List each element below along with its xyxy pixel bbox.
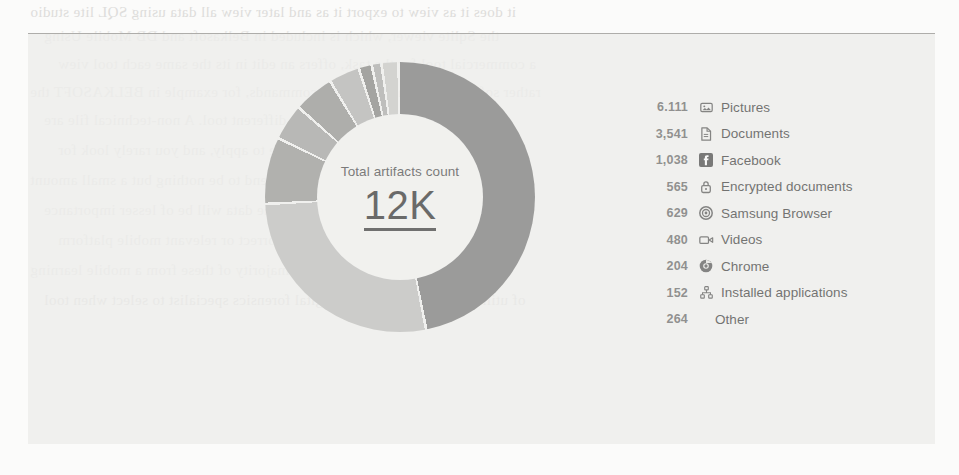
legend-item-value: 629	[640, 206, 688, 220]
pictures-icon	[694, 101, 718, 114]
legend-item-value: 3,541	[640, 127, 688, 141]
legend-item-encrypted-documents[interactable]: 565Encrypted documents	[640, 174, 900, 201]
legend-item-value: 1,038	[640, 153, 688, 167]
legend-item-label: Documents	[721, 126, 790, 141]
legend-item-label: Videos	[721, 232, 762, 247]
lock-icon	[694, 180, 718, 194]
legend-item-value: 264	[640, 312, 688, 326]
installed-applications-icon	[694, 286, 718, 299]
legend-item-other[interactable]: 264Other	[640, 306, 900, 333]
legend-item-label: Chrome	[721, 259, 769, 274]
legend-item-videos[interactable]: 480Videos	[640, 227, 900, 254]
legend-item-label: Other	[715, 312, 749, 327]
legend-item-value: 6.111	[640, 100, 688, 114]
legend-item-label: Installed applications	[721, 285, 847, 300]
legend-item-chrome[interactable]: 204Chrome	[640, 253, 900, 280]
legend-item-label: Samsung Browser	[721, 206, 832, 221]
legend-item-label: Facebook	[721, 153, 781, 168]
donut-center: Total artifacts count 12K	[317, 114, 483, 280]
center-total-value: 12K	[364, 185, 437, 231]
legend-item-value: 204	[640, 259, 688, 273]
legend-item-label: Pictures	[721, 100, 770, 115]
chart-legend: 6.111Pictures3,541Documents1,038Facebook…	[640, 94, 900, 333]
facebook-icon	[694, 153, 718, 167]
legend-item-pictures[interactable]: 6.111Pictures	[640, 94, 900, 121]
document-icon	[694, 127, 718, 141]
legend-item-samsung-browser[interactable]: 629Samsung Browser	[640, 200, 900, 227]
center-title: Total artifacts count	[341, 164, 459, 179]
samsung-browser-icon	[694, 206, 718, 220]
chart-figure-box: Total artifacts count 12K 6.111Pictures3…	[28, 33, 935, 444]
video-icon	[694, 234, 718, 246]
legend-item-label: Encrypted documents	[721, 179, 853, 194]
legend-item-value: 152	[640, 286, 688, 300]
legend-item-value: 565	[640, 180, 688, 194]
legend-item-installed-applications[interactable]: 152Installed applications	[640, 280, 900, 307]
legend-item-documents[interactable]: 3,541Documents	[640, 121, 900, 148]
legend-item-value: 480	[640, 233, 688, 247]
donut-chart[interactable]: Total artifacts count 12K	[265, 62, 535, 332]
chrome-icon	[694, 259, 718, 273]
background-bleed-text: it does it as view to export it as and l…	[30, 4, 516, 21]
legend-item-facebook[interactable]: 1,038Facebook	[640, 147, 900, 174]
